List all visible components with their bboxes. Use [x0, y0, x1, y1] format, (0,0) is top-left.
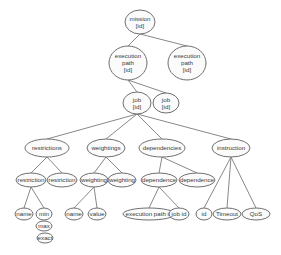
edge-instruction-timeout [227, 157, 231, 208]
node-label: min [39, 210, 50, 217]
edge-mission-exec_path_2 [140, 34, 187, 46]
node-label: job [132, 96, 142, 103]
node-label: mission [130, 15, 152, 22]
node-restriction-2: restriction [47, 173, 77, 187]
node-weightings: weightings [87, 139, 125, 157]
node-job-2: job[id] [153, 93, 179, 113]
node-label: id [202, 210, 207, 217]
nodes-layer: mission[id]executionpath[id]executionpat… [15, 10, 270, 243]
node-label: name [66, 210, 82, 217]
node-dependence-2: dependence [179, 173, 215, 187]
node-label: Timeout [216, 210, 238, 217]
node-label: [id] [183, 66, 192, 73]
node-label: exact [38, 234, 53, 241]
node-label: execution path id [126, 210, 173, 217]
edge-dependencies-dependence_1 [159, 157, 162, 173]
node-exact: exact [37, 233, 53, 243]
node-label: execution [174, 52, 201, 59]
node-label: [id] [124, 66, 133, 73]
tree-diagram: mission[id]executionpath[id]executionpat… [0, 0, 281, 255]
edge-restrictions-restriction_2 [47, 157, 62, 173]
node-label: [id] [133, 103, 142, 110]
node-name-1: name [15, 208, 33, 220]
node-execution-path-id: execution path id [123, 208, 175, 220]
node-mission: mission[id] [125, 10, 155, 34]
edge-weightings-weighting_2 [106, 157, 122, 173]
node-value: value [88, 208, 106, 220]
node-label: weighting [80, 176, 108, 183]
edge-job_1-restrictions [47, 114, 137, 139]
node-exec-path-2: executionpath[id] [168, 46, 206, 80]
edge-weighting_1-value [94, 187, 97, 208]
node-label: [id] [162, 103, 171, 110]
edge-dependence_1-job_id [159, 187, 179, 208]
node-dependencies: dependencies [139, 139, 185, 157]
node-restrictions: restrictions [25, 139, 69, 157]
edge-job_1-weightings [106, 114, 137, 139]
node-label: instruction [217, 144, 246, 151]
edge-dependence_1-execution_path_id [149, 187, 159, 208]
edge-weighting_1-name_2 [74, 187, 94, 208]
node-label: execution [115, 52, 142, 59]
node-label: name [16, 210, 32, 217]
node-timeout: Timeout [213, 208, 241, 220]
node-label: dependencies [143, 144, 182, 151]
node-restriction-1: restriction [16, 173, 46, 187]
node-exec-path-1: executionpath[id] [109, 46, 147, 80]
node-max: max [36, 221, 52, 231]
node-qos: QoS [242, 208, 270, 220]
node-label: restriction [18, 176, 45, 183]
node-label: dependence [180, 176, 215, 183]
node-weighting-2: weighting [108, 173, 136, 187]
node-label: job id [171, 210, 187, 217]
node-label: job [161, 96, 171, 103]
edge-job_1-instruction [137, 114, 231, 139]
node-name-2: name [65, 208, 83, 220]
node-label: [id] [136, 22, 145, 29]
edge-dependencies-dependence_2 [162, 157, 197, 173]
node-label: QoS [250, 210, 262, 217]
node-label: restrictions [32, 144, 62, 151]
node-label: weightings [90, 144, 120, 151]
node-weighting-1: weighting [80, 173, 108, 187]
node-label: weighting [108, 176, 136, 183]
node-instruction: instruction [212, 139, 250, 157]
node-min: min [36, 208, 52, 220]
node-id: id [196, 208, 212, 220]
node-job-id: job id [169, 208, 189, 220]
edge-restrictions-restriction_1 [31, 157, 47, 173]
node-job-1: job[id] [123, 92, 151, 114]
node-label: path [122, 59, 135, 66]
node-label: value [90, 210, 105, 217]
node-label: max [38, 222, 51, 229]
node-label: path [181, 59, 194, 66]
edge-mission-exec_path_1 [128, 34, 140, 46]
node-label: restriction [49, 176, 76, 183]
edge-instruction-qos [231, 157, 256, 208]
node-dependence-1: dependence [141, 173, 177, 187]
edge-restriction_1-name_1 [24, 187, 31, 208]
edge-restriction_1-min [31, 187, 44, 208]
node-label: dependence [142, 176, 177, 183]
edge-exec_path_1-job_2 [128, 80, 166, 93]
edge-weightings-weighting_1 [94, 157, 106, 173]
